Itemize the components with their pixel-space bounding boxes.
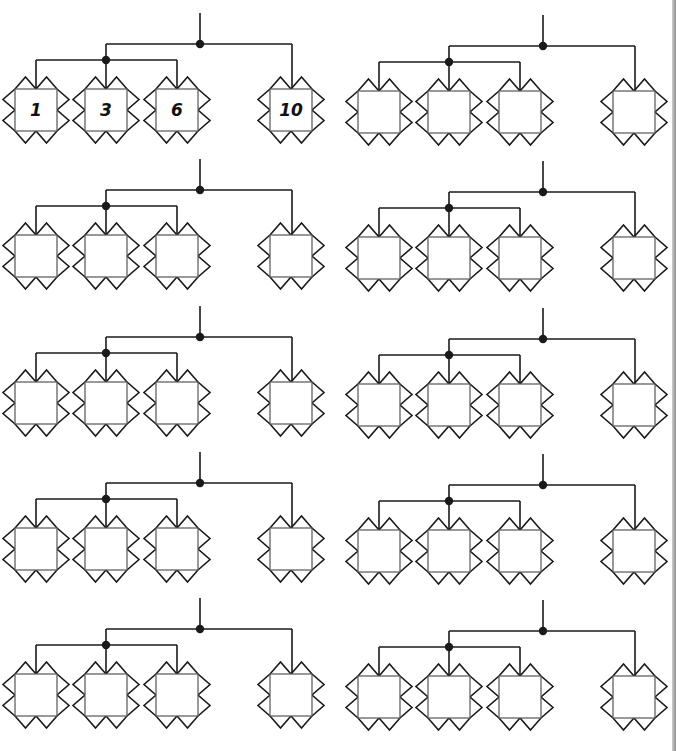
answer-square[interactable] <box>499 384 541 426</box>
box-value: 6 <box>171 100 183 120</box>
junction-dot <box>445 58 453 66</box>
factor-tree: 13610 <box>3 13 324 143</box>
answer-square[interactable] <box>270 235 312 277</box>
box-value: 3 <box>100 100 112 120</box>
answer-box[interactable] <box>258 370 324 436</box>
junction-dot <box>102 56 110 64</box>
answer-square[interactable] <box>428 237 470 279</box>
junction-dot <box>445 643 453 651</box>
junction-dot <box>196 40 204 48</box>
answer-square[interactable] <box>499 530 541 572</box>
answer-square[interactable] <box>85 528 127 570</box>
answer-square[interactable] <box>428 530 470 572</box>
answer-box[interactable] <box>601 225 667 291</box>
junction-dot <box>102 349 110 357</box>
answer-square[interactable] <box>85 235 127 277</box>
answer-square[interactable] <box>428 676 470 718</box>
factor-tree <box>346 308 667 438</box>
junction-dot <box>539 481 547 489</box>
box-value: 1 <box>30 100 42 120</box>
answer-square[interactable] <box>499 91 541 133</box>
junction-dot <box>196 479 204 487</box>
answer-square[interactable] <box>156 528 198 570</box>
answer-square[interactable] <box>613 530 655 572</box>
answer-square[interactable] <box>156 674 198 716</box>
answer-square[interactable] <box>499 237 541 279</box>
junction-dot <box>539 335 547 343</box>
answer-square[interactable] <box>358 676 400 718</box>
answer-square[interactable] <box>613 676 655 718</box>
factor-tree <box>346 161 667 291</box>
answer-square[interactable] <box>499 676 541 718</box>
factor-tree-worksheet: 13610 <box>0 0 676 751</box>
junction-dot <box>539 42 547 50</box>
junction-dot <box>102 202 110 210</box>
junction-dot <box>196 186 204 194</box>
answer-square[interactable] <box>428 384 470 426</box>
answer-square[interactable] <box>358 384 400 426</box>
answer-box[interactable] <box>258 662 324 728</box>
junction-dot <box>102 641 110 649</box>
answer-square[interactable] <box>15 382 57 424</box>
answer-square[interactable] <box>15 674 57 716</box>
junction-dot <box>445 204 453 212</box>
answer-square[interactable] <box>358 237 400 279</box>
factor-tree <box>3 452 324 582</box>
junction-dot <box>539 627 547 635</box>
junction-dot <box>102 495 110 503</box>
answer-box[interactable] <box>601 372 667 438</box>
answer-square[interactable] <box>613 384 655 426</box>
answer-square[interactable] <box>613 237 655 279</box>
factor-tree <box>346 454 667 584</box>
answer-box[interactable]: 10 <box>258 77 324 143</box>
answer-square[interactable] <box>85 382 127 424</box>
junction-dot <box>196 333 204 341</box>
junction-dot <box>445 351 453 359</box>
factor-tree <box>3 159 324 289</box>
answer-box[interactable] <box>601 664 667 730</box>
answer-box[interactable] <box>601 79 667 145</box>
answer-square[interactable] <box>15 235 57 277</box>
answer-square[interactable] <box>358 530 400 572</box>
answer-square[interactable] <box>358 91 400 133</box>
box-value: 10 <box>279 100 303 120</box>
answer-square[interactable] <box>156 382 198 424</box>
answer-square[interactable] <box>85 674 127 716</box>
answer-box[interactable] <box>601 518 667 584</box>
junction-dot <box>445 497 453 505</box>
factor-tree <box>346 600 667 730</box>
factor-tree <box>3 598 324 728</box>
answer-square[interactable] <box>270 674 312 716</box>
junction-dot <box>196 625 204 633</box>
answer-box[interactable] <box>258 516 324 582</box>
junction-dot <box>539 188 547 196</box>
factor-tree <box>346 15 667 145</box>
answer-square[interactable] <box>613 91 655 133</box>
answer-square[interactable] <box>156 235 198 277</box>
page-edge-bar <box>672 0 676 751</box>
factor-tree <box>3 306 324 436</box>
answer-square[interactable] <box>428 91 470 133</box>
answer-square[interactable] <box>270 382 312 424</box>
answer-box[interactable] <box>258 223 324 289</box>
answer-square[interactable] <box>270 528 312 570</box>
answer-square[interactable] <box>15 528 57 570</box>
